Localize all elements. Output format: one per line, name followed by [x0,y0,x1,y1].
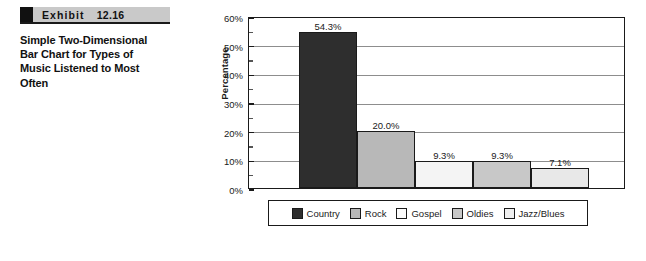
legend-swatch-icon [396,208,407,219]
legend-label: Jazz/Blues [519,208,565,219]
legend-swatch-icon [292,208,303,219]
legend-item-oldies[interactable]: Oldies [452,208,494,219]
y-axis-tick [249,189,254,190]
exhibit-caption-block: Exhibit 12.16 Simple Two-Dimensional Bar… [20,7,170,90]
legend-item-jazz-blues[interactable]: Jazz/Blues [504,208,565,219]
legend-label: Oldies [467,208,494,219]
y-axis-tick-label: 50% [224,41,243,52]
y-axis-tick [249,75,254,76]
y-axis-tick-label: 60% [224,13,243,24]
legend-label: Gospel [411,208,441,219]
y-axis-tick-label: 20% [224,127,243,138]
bar-value-label: 9.3% [433,150,455,161]
y-axis-tick [249,132,254,133]
y-axis-tick [249,103,254,104]
y-axis-minor-tick [249,89,253,90]
y-axis-tick-label: 10% [224,156,243,167]
bar-value-label: 7.1% [549,157,571,168]
legend-swatch-icon [350,208,361,219]
y-axis-minor-tick [249,60,253,61]
legend-item-country[interactable]: Country [292,208,340,219]
y-axis-tick [249,17,254,18]
y-axis-minor-tick [249,175,253,176]
exhibit-header-bar: Exhibit 12.16 [20,7,170,22]
y-axis-tick [249,161,254,162]
legend-label: Country [307,208,340,219]
bar-country [299,32,357,188]
bar-oldies [473,161,531,188]
plot-area: 0%10%20%30%40%50%60%54.3%20.0%9.3%9.3%7.… [248,17,625,189]
y-axis-minor-tick [249,32,253,33]
square-marker-icon [20,7,33,22]
y-axis-minor-tick [249,118,253,119]
legend-swatch-icon [504,208,515,219]
bar-value-label: 9.3% [491,150,513,161]
bar-gospel [415,161,473,188]
y-axis-tick-label: 30% [224,99,243,110]
bar-value-label: 20.0% [373,120,400,131]
exhibit-title: Simple Two-Dimensional Bar Chart for Typ… [20,33,152,90]
y-axis-minor-tick [249,146,253,147]
bar-chart: Percentage 0%10%20%30%40%50%60%54.3%20.0… [196,8,632,238]
bar-rock [357,131,415,188]
bar-value-label: 54.3% [315,21,342,32]
legend-swatch-icon [452,208,463,219]
y-axis-tick-label: 0% [229,185,243,196]
legend-item-gospel[interactable]: Gospel [396,208,441,219]
exhibit-number: 12.16 [97,9,125,21]
y-axis-tick-label: 40% [224,70,243,81]
legend-label: Rock [365,208,387,219]
legend-item-rock[interactable]: Rock [350,208,387,219]
chart-legend: CountryRockGospelOldiesJazz/Blues [268,200,588,226]
bar-jazz-blues [531,168,589,188]
y-axis-tick [249,46,254,47]
exhibit-label: Exhibit [42,9,85,21]
